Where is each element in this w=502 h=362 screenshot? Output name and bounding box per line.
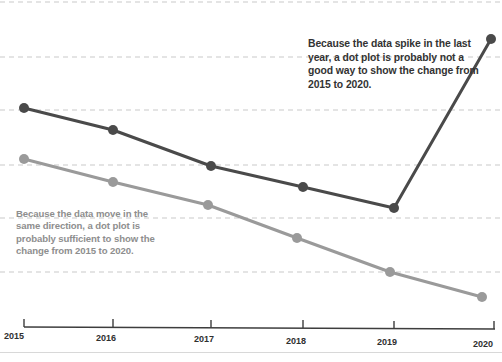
data-point-light-2016[interactable] (108, 177, 118, 187)
chart-page: Because the data spike in the last year,… (0, 0, 502, 362)
x-tick-label-2019: 2019 (377, 337, 397, 347)
data-point-light-2018[interactable] (292, 233, 302, 243)
x-tick-label-2017: 2017 (194, 334, 214, 344)
bottom-separator (0, 352, 502, 353)
annotation-spike-series: Because the data spike in the last year,… (308, 37, 480, 91)
data-point-dark-2020[interactable] (486, 34, 496, 44)
data-point-light-2015[interactable] (19, 154, 29, 164)
data-point-dark-2018[interactable] (298, 182, 308, 192)
x-axis (24, 319, 495, 329)
data-point-light-2017[interactable] (203, 200, 213, 210)
data-point-light-2019[interactable] (385, 267, 395, 277)
data-point-light-2020[interactable] (477, 292, 487, 302)
data-point-dark-2016[interactable] (108, 125, 118, 135)
data-point-dark-2019[interactable] (389, 203, 399, 213)
data-point-dark-2017[interactable] (206, 161, 216, 171)
x-tick-label-2020: 2020 (473, 339, 493, 349)
x-tick-label-2018: 2018 (286, 336, 306, 346)
annotation-decline-series: Because the data move in the same direct… (16, 208, 164, 258)
data-point-dark-2015[interactable] (19, 103, 29, 113)
x-tick-label-2016: 2016 (96, 333, 116, 343)
x-tick-label-2015: 2015 (4, 331, 24, 341)
x-axis-line (24, 327, 495, 329)
